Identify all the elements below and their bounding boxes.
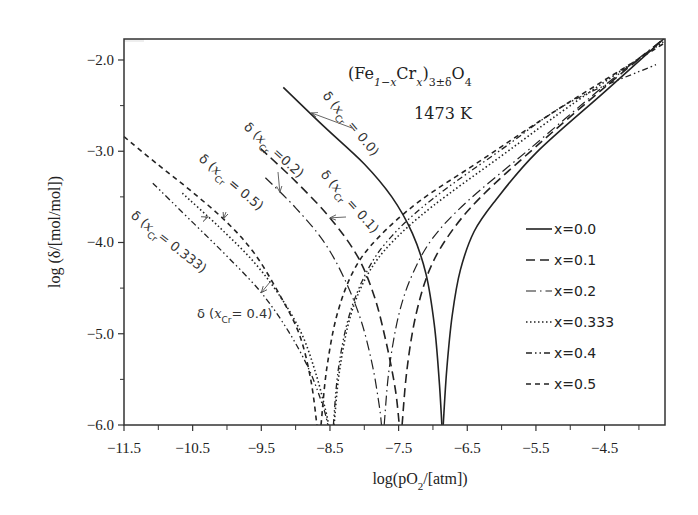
series-x-0-1-right-branch bbox=[402, 39, 663, 425]
annotation-arrow bbox=[205, 217, 208, 218]
y-tick-label: −5.0 bbox=[87, 326, 114, 342]
x-tick-label: −11.5 bbox=[107, 440, 141, 456]
annotation-x-0-1: δ (xCr = 0.1) bbox=[315, 167, 382, 239]
legend-label: x=0.1 bbox=[554, 252, 596, 268]
chart: −11.5−10.5−9.5−8.5−7.5−6.5−5.5−4.5 −2.0−… bbox=[0, 0, 698, 515]
legend-item: x=0.2 bbox=[526, 283, 596, 299]
series-x-0-2-right-branch bbox=[384, 39, 663, 425]
y-tick-label: −4.0 bbox=[87, 234, 114, 250]
annotation-layer: δ (xCr = 0.0)δ (xCr =0.2)δ (xCr = 0.1)δ … bbox=[126, 88, 383, 325]
legend-item: x=0.4 bbox=[526, 345, 596, 361]
series-x-0-333-right-branch bbox=[334, 42, 663, 425]
x-axis: −11.5−10.5−9.5−8.5−7.5−6.5−5.5−4.5 bbox=[107, 425, 639, 456]
annotation-arrow bbox=[224, 212, 226, 219]
legend-label: x=0.4 bbox=[554, 345, 596, 361]
annotation-x-0-4: δ (xCr= 0.4) bbox=[197, 282, 272, 325]
chart-title-formula: (Fe1−xCrx)3±δO4 bbox=[348, 64, 472, 89]
legend: x=0.0x=0.1x=0.2x=0.333x=0.4x=0.5 bbox=[526, 221, 614, 392]
annotation-label: δ (xCr= 0.4) bbox=[197, 306, 272, 325]
annotation-arrow bbox=[330, 217, 346, 218]
x-axis-title: log(pO2/[atm]) bbox=[372, 470, 467, 492]
x-tick-label: −6.5 bbox=[454, 440, 481, 456]
series-x-0-4-right-branch bbox=[333, 65, 656, 425]
y-tick-label: −6.0 bbox=[87, 417, 114, 433]
y-tick-label: −2.0 bbox=[87, 52, 114, 68]
annotation-x-0-2: δ (xCr =0.2) bbox=[238, 119, 307, 192]
series-x-0-4-left-branch bbox=[153, 183, 328, 425]
annotation-label: δ (xCr = 0.1) bbox=[315, 167, 382, 239]
annotation-arrow bbox=[261, 282, 270, 293]
x-tick-label: −10.5 bbox=[175, 440, 210, 456]
annotation-arrow bbox=[278, 172, 280, 192]
y-tick-label: −3.0 bbox=[87, 143, 114, 159]
x-tick-label: −9.5 bbox=[248, 440, 275, 456]
x-tick-label: −4.5 bbox=[591, 440, 618, 456]
legend-label: x=0.0 bbox=[554, 221, 596, 237]
legend-label: x=0.2 bbox=[554, 283, 596, 299]
y-axis-title: log (δ/[mol/mol]) bbox=[46, 176, 64, 288]
annotation-x-0-333: δ (xCr= 0.333) bbox=[126, 208, 210, 280]
legend-item: x=0.0 bbox=[526, 221, 596, 237]
x-tick-label: −5.5 bbox=[522, 440, 549, 456]
temperature-label: 1473 K bbox=[414, 104, 473, 123]
annotation-label: δ (xCr =0.2) bbox=[238, 119, 307, 183]
legend-label: x=0.5 bbox=[554, 376, 596, 392]
x-tick-label: −8.5 bbox=[316, 440, 343, 456]
annotation-label: δ (xCr= 0.333) bbox=[126, 208, 210, 280]
x-tick-label: −7.5 bbox=[385, 440, 412, 456]
legend-label: x=0.333 bbox=[554, 314, 614, 330]
annotation-x-0-5: δ (xCr = 0.5) bbox=[194, 151, 267, 219]
legend-item: x=0.333 bbox=[526, 314, 614, 330]
annotation-label: δ (xCr = 0.5) bbox=[194, 151, 267, 217]
legend-item: x=0.5 bbox=[526, 376, 596, 392]
y-axis: −2.0−3.0−4.0−5.0−6.0 bbox=[87, 52, 124, 433]
legend-item: x=0.1 bbox=[526, 252, 596, 268]
